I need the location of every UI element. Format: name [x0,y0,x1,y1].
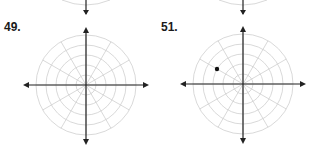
polar-grid-49 [23,27,149,145]
polar-grids [0,0,310,151]
prev-polar-grid-fragment-left [62,0,110,15]
prev-polar-grid-fragment-right [219,0,267,15]
polar-grid-51 [180,26,306,144]
plotted-point [215,67,219,71]
